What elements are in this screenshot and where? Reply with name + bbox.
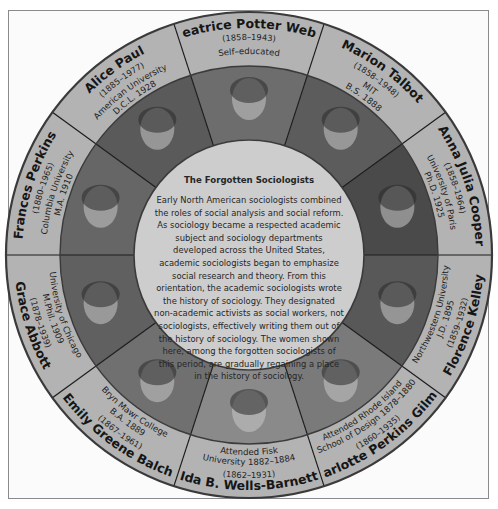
portrait-hair (378, 281, 416, 307)
portrait-hair (82, 185, 120, 211)
center-title: The Forgotten Sociologists (154, 175, 344, 185)
portrait-hair (378, 185, 416, 211)
portrait-hair (322, 107, 360, 133)
portrait-hair (138, 107, 176, 133)
portrait-hair (230, 389, 268, 415)
portrait-hair (230, 77, 268, 103)
sociologist-years: (1862–1931) (222, 468, 275, 480)
sociologist-years: (1858–1943) (222, 32, 277, 44)
center-text-block: The Forgotten Sociologists Early North A… (154, 175, 344, 383)
center-body: Early North American sociologists combin… (154, 194, 344, 383)
portrait-hair (82, 281, 120, 307)
